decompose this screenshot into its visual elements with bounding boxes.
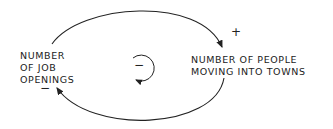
negative-polarity-sign: − [40, 81, 50, 95]
node-people-moving: NUMBER OF PEOPLE MOVING INTO TOWNS [191, 54, 306, 78]
positive-link-arrow [52, 11, 222, 47]
negative-link-arrow [57, 78, 224, 120]
positive-polarity-sign: + [231, 25, 241, 39]
loop-polarity-sign: − [134, 58, 144, 72]
